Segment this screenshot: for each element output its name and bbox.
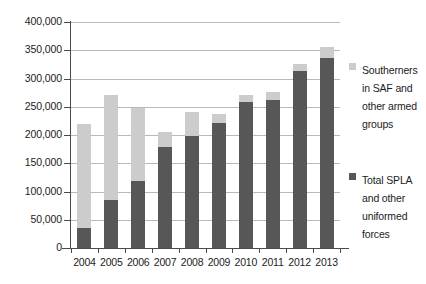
- bar-segment-total-spla-2005: [104, 200, 118, 248]
- legend-item-total-spla: Total SPLA and other uniformed forces: [349, 170, 426, 242]
- plot-area: [71, 22, 340, 248]
- bar-segment-southerners-saf-2011: [266, 92, 280, 100]
- x-tick-mark: [313, 248, 314, 253]
- x-tick-mark: [286, 248, 287, 253]
- x-tick-label-2009: 2009: [206, 256, 233, 268]
- y-tick-label: 300,000: [4, 73, 62, 84]
- chart-legend: Southerners in SAF and other armed group…: [349, 60, 426, 280]
- y-tick-label: 350,000: [4, 44, 62, 55]
- bar-2008: [185, 112, 199, 248]
- bar-segment-total-spla-2006: [131, 181, 145, 248]
- bar-segment-southerners-saf-2013: [320, 47, 334, 57]
- bar-2005: [104, 95, 118, 248]
- bar-segment-southerners-saf-2009: [212, 114, 226, 123]
- bar-segment-southerners-saf-2007: [158, 132, 172, 147]
- y-tick-label: 150,000: [4, 157, 62, 168]
- x-tick-label-2013: 2013: [313, 256, 340, 268]
- legend-item-southerners-saf: Southerners in SAF and other armed group…: [349, 60, 426, 132]
- bar-2009: [212, 114, 226, 248]
- bar-2013: [320, 47, 334, 248]
- x-tick-label-2012: 2012: [286, 256, 313, 268]
- y-tick: 150,000: [0, 157, 62, 168]
- bar-segment-total-spla-2009: [212, 123, 226, 248]
- x-tick-mark: [179, 248, 180, 253]
- x-tick-mark: [125, 248, 126, 253]
- bar-segment-southerners-saf-2012: [293, 64, 307, 71]
- bar-segment-total-spla-2013: [320, 58, 334, 248]
- bar-2004: [77, 124, 91, 248]
- x-tick-mark: [259, 248, 260, 253]
- bar-2011: [266, 92, 280, 249]
- x-tick-mark: [206, 248, 207, 253]
- legend-label-southerners-saf: Southerners in SAF and other armed group…: [362, 64, 418, 130]
- x-tick-label-2007: 2007: [152, 256, 179, 268]
- y-tick-label: 100,000: [4, 186, 62, 197]
- x-tick-label-2005: 2005: [98, 256, 125, 268]
- y-tick: 50,000: [0, 214, 62, 225]
- bar-2010: [239, 95, 253, 248]
- bar-segment-total-spla-2011: [266, 100, 280, 248]
- bar-segment-southerners-saf-2010: [239, 95, 253, 101]
- x-tick-mark: [340, 248, 341, 253]
- bar-segment-total-spla-2010: [239, 102, 253, 248]
- y-tick-mark: [64, 135, 71, 136]
- bar-2012: [293, 64, 307, 248]
- x-tick-label-2006: 2006: [125, 256, 152, 268]
- y-tick-mark: [64, 248, 71, 249]
- bar-segment-southerners-saf-2004: [77, 124, 91, 229]
- x-tick-mark: [98, 248, 99, 253]
- y-tick-mark: [64, 79, 71, 80]
- y-tick: 250,000: [0, 101, 62, 112]
- x-tick-mark: [152, 248, 153, 253]
- y-tick-mark: [64, 22, 71, 23]
- y-tick: 0: [0, 242, 62, 253]
- y-tick: 400,000: [0, 16, 62, 27]
- bar-segment-total-spla-2008: [185, 136, 199, 248]
- stacked-bar-chart: 050,000100,000150,000200,000250,000300,0…: [0, 0, 426, 284]
- legend-swatch-icon-dark: [349, 173, 356, 180]
- bar-segment-total-spla-2004: [77, 228, 91, 248]
- x-tick-label-2004: 2004: [71, 256, 98, 268]
- bar-segment-total-spla-2012: [293, 71, 307, 248]
- y-tick-mark: [64, 50, 71, 51]
- bar-segment-southerners-saf-2006: [131, 108, 145, 181]
- x-tick-label-2011: 2011: [259, 256, 286, 268]
- y-tick: 100,000: [0, 186, 62, 197]
- y-tick-mark: [64, 192, 71, 193]
- bar-2007: [158, 132, 172, 248]
- y-tick-label: 50,000: [4, 214, 62, 225]
- x-tick-mark: [71, 248, 72, 253]
- x-tick-label-2010: 2010: [232, 256, 259, 268]
- bar-segment-southerners-saf-2005: [104, 95, 118, 200]
- y-tick: 300,000: [0, 73, 62, 84]
- y-tick-label: 200,000: [4, 129, 62, 140]
- y-tick: 200,000: [0, 129, 62, 140]
- gridline-350000: [71, 50, 340, 51]
- y-tick-label: 250,000: [4, 101, 62, 112]
- x-tick-label-2008: 2008: [179, 256, 206, 268]
- bar-segment-southerners-saf-2008: [185, 112, 199, 136]
- gridline-400000: [71, 22, 340, 23]
- bar-segment-total-spla-2007: [158, 147, 172, 248]
- y-tick-label: 0: [4, 242, 62, 253]
- y-tick-label: 400,000: [4, 16, 62, 27]
- legend-label-total-spla: Total SPLA and other uniformed forces: [362, 174, 412, 240]
- legend-swatch-icon-light: [349, 63, 356, 70]
- y-tick-mark: [64, 163, 71, 164]
- x-tick-mark: [232, 248, 233, 253]
- y-tick-mark: [64, 220, 71, 221]
- y-tick: 350,000: [0, 44, 62, 55]
- y-tick-mark: [64, 107, 71, 108]
- bar-2006: [131, 108, 145, 248]
